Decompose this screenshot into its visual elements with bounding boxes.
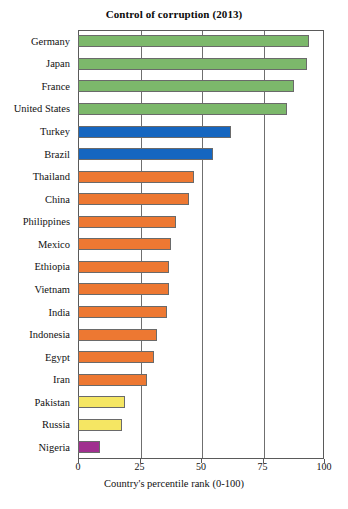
x-tick-label: 25 — [135, 461, 145, 472]
bar-row — [78, 98, 324, 121]
bar-row — [78, 120, 324, 143]
y-axis-label: Egypt — [0, 346, 74, 369]
bar-row — [78, 368, 324, 391]
bar-row — [78, 233, 324, 256]
bar — [78, 419, 122, 431]
bar-row — [78, 323, 324, 346]
chart-title: Control of corruption (2013) — [0, 8, 348, 20]
bar — [78, 35, 309, 47]
bar-row — [78, 211, 324, 234]
y-axis-label: Russia — [0, 414, 74, 437]
bar-series — [78, 30, 324, 459]
x-tick-label: 50 — [196, 461, 206, 472]
bar-chart: Control of corruption (2013) GermanyJapa… — [0, 0, 348, 509]
bar — [78, 216, 176, 228]
bar-row — [78, 30, 324, 53]
bar-row — [78, 53, 324, 76]
bar — [78, 103, 287, 115]
bar-row — [78, 256, 324, 279]
x-tick-label: 0 — [76, 461, 81, 472]
bar-row — [78, 346, 324, 369]
y-axis-label: Brazil — [0, 143, 74, 166]
bar-row — [78, 414, 324, 437]
y-axis-label: United States — [0, 98, 74, 121]
y-axis-label: India — [0, 301, 74, 324]
y-axis-label: Ethiopia — [0, 256, 74, 279]
x-tick-label: 75 — [258, 461, 268, 472]
bar — [78, 396, 125, 408]
bar — [78, 238, 171, 250]
x-axis-ticks: 0255075100 — [78, 459, 324, 475]
bar — [78, 374, 147, 386]
y-axis-label: Thailand — [0, 165, 74, 188]
bar — [78, 58, 307, 70]
bar-row — [78, 143, 324, 166]
bar-row — [78, 391, 324, 414]
bar — [78, 441, 100, 453]
y-axis-label: Vietnam — [0, 278, 74, 301]
y-axis-label: Philippines — [0, 211, 74, 234]
y-axis-label: China — [0, 188, 74, 211]
y-axis-label: Japan — [0, 53, 74, 76]
bar — [78, 80, 294, 92]
bar-row — [78, 165, 324, 188]
y-axis-label: Turkey — [0, 120, 74, 143]
y-axis-label: Indonesia — [0, 323, 74, 346]
bar-row — [78, 278, 324, 301]
bar — [78, 126, 231, 138]
bar — [78, 306, 167, 318]
y-axis-label: Iran — [0, 368, 74, 391]
bar — [78, 261, 169, 273]
y-axis-label: France — [0, 75, 74, 98]
bar — [78, 329, 157, 341]
y-axis-label: Pakistan — [0, 391, 74, 414]
x-axis-label: Country's percentile rank (0-100) — [0, 478, 348, 489]
bar-row — [78, 188, 324, 211]
bar — [78, 148, 213, 160]
y-axis-label: Mexico — [0, 233, 74, 256]
bar — [78, 351, 154, 363]
bar — [78, 283, 169, 295]
bar-row — [78, 436, 324, 459]
y-axis-label: Nigeria — [0, 436, 74, 459]
bar-row — [78, 301, 324, 324]
bar — [78, 193, 189, 205]
bar-row — [78, 75, 324, 98]
bar — [78, 171, 194, 183]
y-axis-label: Germany — [0, 30, 74, 53]
y-axis-category-labels: GermanyJapanFranceUnited StatesTurkeyBra… — [0, 30, 74, 459]
x-tick-label: 100 — [317, 461, 332, 472]
